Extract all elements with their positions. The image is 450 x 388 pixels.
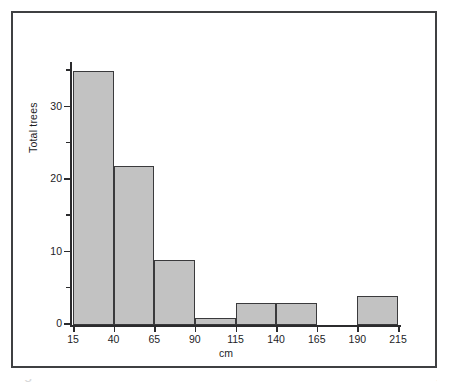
x-axis: [70, 325, 401, 327]
figure-frame: Total trees cm 0102030154065901151401651…: [11, 11, 437, 368]
y-axis-tick: [64, 178, 70, 180]
y-axis-tick-label: 30: [50, 100, 62, 112]
x-axis-tick-label: 165: [308, 333, 326, 345]
x-axis-tick-label: 115: [227, 333, 244, 345]
x-axis-tick: [73, 327, 75, 332]
x-axis-title: cm: [13, 347, 439, 359]
histogram-bar: [276, 303, 317, 325]
x-axis-tick: [276, 327, 278, 332]
y-axis-minor-tick: [66, 214, 70, 216]
y-axis-minor-tick: [66, 287, 70, 289]
y-axis-tick-label: 10: [50, 245, 62, 257]
histogram-bar: [154, 260, 195, 325]
histogram-bar: [73, 71, 114, 325]
y-axis-minor-tick: [66, 142, 70, 144]
x-axis-tick-label: 215: [389, 333, 407, 345]
x-axis-tick: [317, 327, 319, 332]
histogram-bar: [357, 296, 398, 325]
x-axis-tick: [357, 327, 359, 332]
x-axis-tick-label: 90: [189, 333, 201, 345]
x-axis-tick: [236, 327, 238, 332]
x-axis-tick: [114, 327, 116, 332]
x-axis-tick-label: 40: [108, 333, 120, 345]
x-axis-tick-label: 65: [148, 333, 160, 345]
y-axis-tick-label: 0: [56, 317, 62, 329]
y-axis-tick: [64, 251, 70, 253]
x-axis-tick: [398, 327, 400, 332]
histogram-bar: [195, 318, 236, 325]
figure-caption: Figure 1.5 The distribution of different…: [11, 379, 437, 388]
y-axis: [70, 62, 72, 327]
y-axis-title: Total trees: [27, 102, 39, 153]
histogram-bar: [114, 166, 155, 326]
x-axis-tick: [154, 327, 156, 332]
x-axis-tick: [195, 327, 197, 332]
y-axis-tick: [64, 106, 70, 108]
histogram-chart: Total trees cm 0102030154065901151401651…: [13, 13, 439, 370]
figure-caption-text: Figure 1.5 The distribution of different…: [11, 379, 437, 382]
y-axis-minor-tick: [66, 69, 70, 71]
y-axis-tick-label: 20: [50, 172, 62, 184]
x-axis-tick-label: 140: [267, 333, 285, 345]
histogram-bar: [236, 303, 277, 325]
x-axis-tick-label: 15: [67, 333, 79, 345]
plot-area: [73, 64, 398, 325]
x-axis-tick-label: 190: [349, 333, 367, 345]
